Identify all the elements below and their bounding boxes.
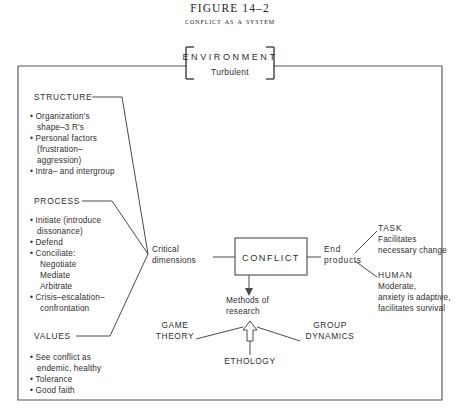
task-line-0: Facilitates bbox=[378, 235, 417, 244]
game-theory-line1: GAME bbox=[161, 320, 188, 330]
structure-item-1: shape–3 R's bbox=[37, 123, 84, 132]
structure-item-5: Intra– and intergroup bbox=[36, 167, 115, 176]
values-item-0: See conflict as bbox=[36, 353, 92, 362]
end-products-line2: products bbox=[324, 255, 362, 265]
task-heading: TASK bbox=[378, 223, 402, 233]
game-theory-to-methods-line bbox=[196, 327, 243, 339]
structure-to-critical-line bbox=[122, 97, 148, 254]
process-item-7: Crisis–escalation– bbox=[36, 293, 105, 302]
critical-dimensions-node: Critical dimensions bbox=[152, 244, 196, 265]
task-line-1: necessary change bbox=[378, 246, 447, 255]
output-branch-human: HUMAN Moderate, anxiety is adaptive, fac… bbox=[378, 270, 451, 313]
structure-item-3: (frustration– bbox=[37, 145, 83, 154]
process-item-3: Conciliate: bbox=[36, 249, 76, 258]
method-ethology: ETHOLOGY bbox=[224, 356, 275, 366]
values-item-2: Tolerance bbox=[36, 375, 73, 384]
environment-title: ENVIRONMENT bbox=[182, 52, 277, 62]
methods-line1: Methods of bbox=[226, 295, 270, 305]
values-bullet-0: •See conflict as bbox=[30, 353, 91, 362]
conflict-box-label: CONFLICT bbox=[242, 253, 300, 263]
end-products-line1: End bbox=[324, 244, 341, 254]
ethology-line1: ETHOLOGY bbox=[224, 356, 275, 366]
values-heading: VALUES bbox=[34, 331, 71, 341]
values-item-1: endemic, healthy bbox=[37, 364, 102, 373]
process-item-6: Arbitrate bbox=[40, 282, 73, 291]
process-item-1: dissonance) bbox=[37, 227, 83, 236]
critical-dimensions-line2: dimensions bbox=[152, 255, 196, 265]
group-dynamics-line1: GROUP bbox=[313, 320, 347, 330]
structure-item-0: Organization's bbox=[36, 112, 90, 121]
game-theory-line2: THEORY bbox=[156, 331, 194, 341]
process-bullet-7: •Crisis–escalation– bbox=[30, 293, 105, 302]
process-item-8: confrontation bbox=[40, 304, 90, 313]
values-bullet-3: •Good faith bbox=[30, 386, 75, 395]
structure-item-2: Personal factors bbox=[36, 134, 98, 143]
conflict-box: CONFLICT bbox=[235, 238, 307, 275]
values-to-critical-line bbox=[110, 254, 148, 336]
input-group-process: PROCESS •Initiate (introduce dissonance)… bbox=[30, 196, 112, 313]
human-line-2: facilitates survival bbox=[378, 304, 445, 313]
process-bullet-2: •Defend bbox=[30, 238, 63, 247]
input-group-structure: STRUCTURE •Organization's shape–3 R's •P… bbox=[30, 92, 122, 176]
method-group-dynamics: GROUP DYNAMICS bbox=[305, 320, 354, 341]
process-item-4: Negotiate bbox=[40, 260, 77, 269]
values-item-3: Good faith bbox=[36, 386, 76, 395]
structure-bullet-0: •Organization's bbox=[30, 112, 90, 121]
structure-bullet-2: •Personal factors bbox=[30, 134, 97, 143]
values-bullet-2: •Tolerance bbox=[30, 375, 73, 384]
process-bullet-0: •Initiate (introduce bbox=[30, 216, 101, 225]
process-item-2: Defend bbox=[36, 238, 64, 247]
figure-container: FIGURE 14–2 Conflict as a system ENVIRON… bbox=[0, 0, 460, 413]
human-heading: HUMAN bbox=[378, 270, 412, 280]
output-branch-task: TASK Facilitates necessary change bbox=[378, 223, 447, 255]
group-dynamics-to-methods-line bbox=[257, 327, 300, 341]
method-game-theory: GAME THEORY bbox=[156, 320, 194, 341]
process-item-5: Mediate bbox=[40, 271, 70, 280]
group-dynamics-line2: DYNAMICS bbox=[305, 331, 354, 341]
critical-dimensions-line1: Critical bbox=[152, 244, 179, 254]
process-item-0: Initiate (introduce bbox=[36, 216, 102, 225]
end-products-to-task-line bbox=[355, 231, 377, 253]
structure-item-4: aggression) bbox=[37, 156, 82, 165]
process-heading: PROCESS bbox=[34, 196, 80, 206]
methods-up-arrow-outline bbox=[243, 321, 257, 341]
methods-of-research-node: Methods of research bbox=[226, 295, 270, 316]
process-to-critical-line bbox=[112, 201, 148, 254]
structure-heading: STRUCTURE bbox=[34, 92, 92, 102]
conflict-system-diagram: ENVIRONMENT Turbulent STRUCTURE •Organiz… bbox=[0, 0, 460, 413]
environment-subtitle: Turbulent bbox=[211, 67, 249, 77]
methods-line2: research bbox=[226, 306, 260, 316]
process-bullet-3: •Conciliate: bbox=[30, 249, 75, 258]
human-line-1: anxiety is adaptive, bbox=[378, 293, 451, 302]
environment-box: ENVIRONMENT Turbulent bbox=[182, 47, 277, 79]
input-group-values: VALUES •See conflict as endemic, healthy… bbox=[30, 331, 110, 395]
end-products-to-human-line bbox=[355, 261, 377, 277]
structure-bullet-5: •Intra– and intergroup bbox=[30, 167, 115, 176]
human-line-0: Moderate, bbox=[378, 282, 416, 291]
